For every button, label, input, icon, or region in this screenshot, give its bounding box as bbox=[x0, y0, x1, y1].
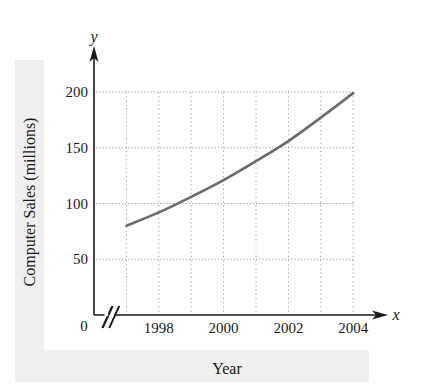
x-axis-label: Year bbox=[212, 360, 242, 377]
y-axis-symbol: y bbox=[88, 28, 98, 46]
label-band bbox=[15, 60, 369, 382]
y-tick-label: 150 bbox=[66, 140, 89, 156]
chart-figure: 501001502001998200020022004 y x 0 Year C… bbox=[0, 0, 422, 390]
y-tick-label: 50 bbox=[73, 251, 88, 267]
x-tick-label: 2000 bbox=[209, 320, 239, 336]
line-chart: 501001502001998200020022004 y x 0 Year C… bbox=[0, 0, 422, 390]
y-axis-label: Computer Sales (millions) bbox=[21, 118, 39, 287]
x-tick-label: 2004 bbox=[338, 320, 369, 336]
origin-label: 0 bbox=[80, 318, 88, 334]
x-tick-label: 1998 bbox=[144, 320, 174, 336]
x-axis-symbol: x bbox=[391, 306, 399, 323]
y-tick-label: 100 bbox=[66, 196, 89, 212]
y-tick-label: 200 bbox=[66, 84, 89, 100]
x-tick-label: 2002 bbox=[273, 320, 303, 336]
